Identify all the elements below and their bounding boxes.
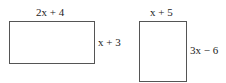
rectangle-left [9, 21, 95, 64]
rectangle-left-height-label: x + 3 [98, 37, 121, 48]
rectangle-left-width-label: 2x + 4 [36, 7, 64, 18]
rectangle-right-width-label: x + 5 [150, 7, 173, 18]
rectangle-right-height-label: 3x − 6 [190, 45, 218, 56]
rectangle-right [139, 21, 187, 82]
